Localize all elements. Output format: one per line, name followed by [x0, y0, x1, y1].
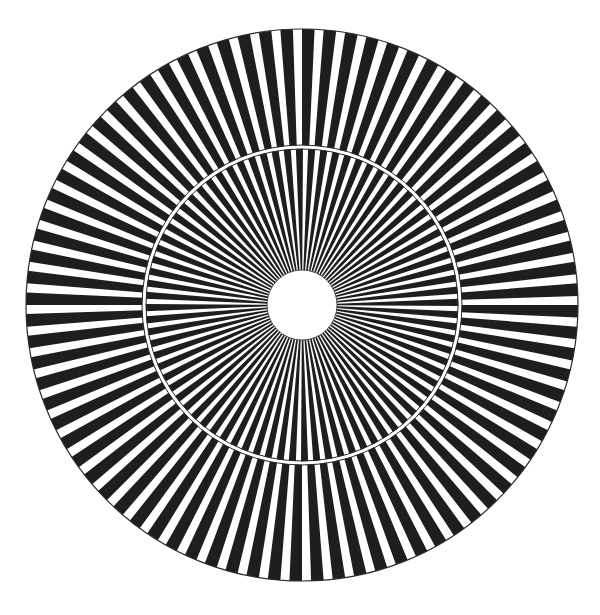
- outer-spoke: [289, 464, 302, 581]
- figure-canvas: [0, 0, 600, 615]
- outer-spoke: [461, 283, 578, 299]
- inner-spoke: [187, 194, 277, 282]
- outer-spoke: [461, 305, 578, 318]
- outer-spoke: [302, 29, 315, 146]
- outer-spoke: [307, 464, 323, 581]
- radial-spoke-wheel: [0, 0, 600, 615]
- inner-spoke: [326, 190, 414, 280]
- outer-spoke: [26, 292, 143, 305]
- inner-spoke: [327, 329, 417, 417]
- outer-spoke: [280, 29, 296, 146]
- inner-spoke: [191, 330, 279, 420]
- outer-spoke: [26, 310, 143, 326]
- center-hole: [267, 270, 337, 340]
